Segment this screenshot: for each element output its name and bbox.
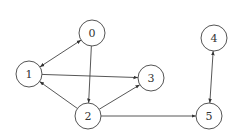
edge-4-5: [210, 51, 213, 103]
node-0: 0: [79, 20, 105, 46]
node-label: 3: [148, 72, 155, 85]
graph-canvas: 012345: [0, 0, 248, 138]
node-5: 5: [196, 103, 222, 129]
node-1: 1: [16, 61, 42, 87]
node-label: 2: [85, 110, 92, 123]
node-2: 2: [75, 103, 101, 129]
node-label: 5: [206, 110, 213, 123]
edge-0-2: [89, 46, 92, 103]
edge-1-0: [40, 40, 81, 67]
edge-2-1: [40, 82, 78, 109]
node-label: 1: [26, 68, 33, 81]
node-4: 4: [201, 25, 227, 51]
edges-layer: [40, 40, 214, 116]
node-label: 4: [211, 32, 218, 45]
node-3: 3: [138, 65, 164, 91]
node-label: 0: [89, 27, 96, 40]
edge-2-3: [99, 85, 140, 110]
